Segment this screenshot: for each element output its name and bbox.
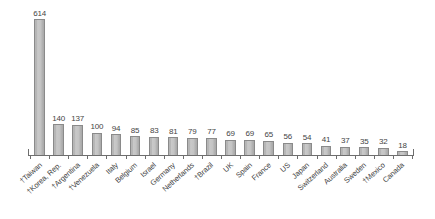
bar-rect [130,136,141,155]
bar-value-label: 32 [379,137,388,146]
bar-value-label: 83 [150,126,159,135]
bar-group: 32 [378,8,389,155]
bar-group: 614 [34,8,45,155]
bar-column: 18 [397,141,408,155]
bar-value-label: 81 [169,127,178,136]
x-axis-tick [164,155,165,159]
bar-group: 79 [187,8,198,155]
x-axis-tick [336,155,337,159]
bar-column: 37 [340,136,351,155]
bar-value-label: 137 [71,114,84,123]
x-axis-tick [68,155,69,159]
bar-group: 140 [53,8,64,155]
bar-value-label: 35 [360,137,369,146]
bar-column: 140 [53,114,64,156]
bar-rect [187,138,198,155]
bar-rect [359,147,370,155]
x-axis-tick-label-text: †Brazil [193,160,216,182]
x-axis-tick [183,155,184,159]
x-axis-tick [259,155,260,159]
bar-column: 137 [72,114,83,155]
x-axis-tick [412,155,413,159]
x-axis-tick [374,155,375,159]
x-axis-tick [49,155,50,159]
x-axis-tick [393,155,394,159]
bar-value-label: 69 [245,129,254,138]
bar-group: 35 [359,8,370,155]
bar-group: 56 [283,8,294,155]
bar-rect [34,19,45,155]
bar-group: 65 [263,8,274,155]
bar-column: 614 [34,9,45,156]
bar-value-label: 54 [303,133,312,142]
bar-rect [111,134,122,155]
bar-rect [225,140,236,155]
bar-value-label: 79 [188,127,197,136]
x-axis-tick [202,155,203,159]
x-axis-tick [126,155,127,159]
bar-group: 54 [302,8,313,155]
bar-group: 137 [72,8,83,155]
bar-column: 83 [149,126,160,155]
bar-column: 69 [225,129,236,155]
bar-value-label: 41 [322,135,331,144]
x-axis-right-cap [413,149,414,156]
bar-rect [92,133,103,155]
bar-rect [206,138,217,155]
bar-group: 37 [340,8,351,155]
x-axis-tick [30,155,31,159]
bar-column: 54 [302,133,313,155]
x-axis-labels: †Taiwan†Korea, Rep.†Argentina†VenezuelaI… [30,160,412,219]
bar-group: 85 [130,8,141,155]
bar-column: 100 [92,122,103,155]
bar-column: 85 [130,126,141,155]
bar-group: 69 [244,8,255,155]
bar-column: 69 [244,129,255,155]
bar-value-label: 614 [33,9,46,18]
x-axis-tick [355,155,356,159]
bar-group: 77 [206,8,217,155]
bar-value-label: 77 [207,127,216,136]
x-axis-tick [278,155,279,159]
bar-rect [340,147,351,155]
bar-rect [168,137,179,155]
bar-column: 94 [111,124,122,155]
bar-group: 83 [149,8,160,155]
bar-column: 81 [168,127,179,155]
bar-rect [283,143,294,155]
bar-group: 18 [397,8,408,155]
bar-column: 56 [283,132,294,155]
bar-column: 65 [263,130,274,155]
bar-rect [263,141,274,155]
bar-column: 77 [206,127,217,155]
x-axis-tick [221,155,222,159]
x-axis-tick [87,155,88,159]
bar-value-label: 37 [341,136,350,145]
bar-column: 32 [378,137,389,155]
x-axis-tick [145,155,146,159]
bar-rect [321,146,332,155]
bar-rect [149,137,160,155]
bar-chart: 6141401371009485838179776969655654413735… [0,0,435,219]
bar-column: 79 [187,127,198,155]
bar-value-label: 140 [52,114,65,123]
bar-value-label: 94 [112,124,121,133]
bar-rect [378,148,389,155]
bar-value-label: 69 [226,129,235,138]
x-axis-tick [240,155,241,159]
bar-value-label: 56 [284,132,293,141]
bar-rect [53,124,64,155]
x-axis-tick [317,155,318,159]
bar-group: 94 [111,8,122,155]
bar-value-label: 18 [398,141,407,150]
bar-group: 69 [225,8,236,155]
x-axis-tick-label: †Brazil [193,160,216,182]
bar-value-label: 100 [90,122,103,131]
bar-value-label: 85 [131,126,140,135]
bar-rect [244,140,255,155]
bar-rect [72,125,83,155]
bar-group: 81 [168,8,179,155]
bar-value-label: 65 [264,130,273,139]
bar-column: 35 [359,137,370,155]
bar-column: 41 [321,135,332,155]
